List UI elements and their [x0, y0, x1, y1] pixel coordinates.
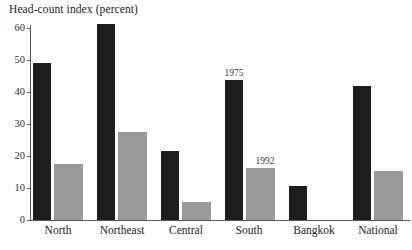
- x-tick-label-bangkok: Bangkok: [282, 224, 346, 236]
- y-tick-mark-40: [27, 92, 30, 93]
- bar-group-north: [33, 24, 81, 220]
- bar-chart-figure: Head-count index (percent) 60 50 40 30 2…: [0, 0, 412, 250]
- y-tick-mark-20: [27, 156, 30, 157]
- bar-group-northeast: [97, 24, 145, 220]
- bar-northeast-1992: [118, 132, 147, 220]
- x-tick-label-national: National: [345, 224, 411, 236]
- y-axis-line: [30, 25, 31, 221]
- bar-bangkok-1975: [289, 186, 307, 220]
- bar-central-1992: [182, 202, 211, 220]
- x-tick-label-south: South: [221, 224, 277, 236]
- series-annotation-1975: 1975: [212, 68, 256, 78]
- y-tick-label-20: 20: [1, 151, 25, 161]
- y-tick-mark-60: [27, 28, 30, 29]
- x-tick-label-central: Central: [156, 224, 216, 236]
- x-tick-label-northeast: Northeast: [87, 224, 157, 236]
- x-tick-label-north: North: [33, 224, 83, 236]
- y-tick-label-30: 30: [1, 119, 25, 129]
- y-tick-label-0: 0: [1, 215, 25, 225]
- y-tick-mark-30: [27, 124, 30, 125]
- bar-national-1975: [353, 86, 371, 220]
- bar-group-bangkok: [289, 24, 337, 220]
- y-tick-label-10: 10: [1, 183, 25, 193]
- bar-central-1975: [161, 151, 179, 220]
- bar-group-central: [161, 24, 209, 220]
- bar-group-national: [353, 24, 401, 220]
- bar-north-1975: [33, 63, 51, 220]
- y-tick-label-40: 40: [1, 87, 25, 97]
- y-tick-mark-10: [27, 188, 30, 189]
- y-tick-label-60: 60: [1, 23, 25, 33]
- chart-title: Head-count index (percent): [9, 3, 138, 15]
- bar-national-1992: [374, 171, 403, 220]
- y-tick-mark-50: [27, 60, 30, 61]
- y-tick-label-50: 50: [1, 55, 25, 65]
- series-annotation-1992: 1992: [243, 156, 287, 166]
- x-axis-line: [27, 220, 410, 221]
- bar-south-1992: [246, 168, 275, 220]
- bar-northeast-1975: [97, 24, 115, 220]
- bar-north-1992: [54, 164, 83, 220]
- bar-south-1975: [225, 80, 243, 220]
- bar-group-south: [225, 24, 273, 220]
